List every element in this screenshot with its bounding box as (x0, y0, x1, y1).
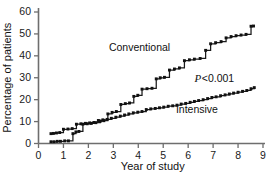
data-point-marker (204, 49, 207, 52)
data-point-marker (193, 58, 196, 61)
data-point-marker (149, 107, 152, 110)
data-point-marker (141, 88, 144, 91)
data-point-marker (214, 41, 217, 44)
data-point-marker (202, 98, 205, 101)
data-point-marker (168, 69, 171, 72)
data-point-marker (250, 25, 253, 28)
data-point-marker (250, 87, 253, 90)
data-point-marker (163, 76, 166, 79)
x-tick-label-2: 2 (85, 149, 91, 161)
data-point-marker (228, 93, 231, 96)
data-point-marker (136, 111, 139, 114)
x-tick-label-1: 1 (61, 149, 67, 161)
data-point-marker (235, 34, 238, 37)
data-point-marker (55, 132, 58, 135)
data-point-marker (158, 106, 161, 109)
data-point-marker (66, 128, 69, 131)
annotation-layer: ConventionalIntensiveP<0.001 (109, 41, 234, 115)
data-point-marker (119, 103, 122, 106)
data-point-marker (52, 132, 55, 135)
data-point-marker (173, 68, 176, 71)
data-point-marker (225, 36, 228, 39)
data-point-marker (210, 96, 213, 99)
x-axis-title: Year of study (121, 160, 185, 172)
data-point-marker (154, 107, 157, 110)
data-point-marker (209, 42, 212, 45)
data-point-marker (188, 58, 191, 61)
data-point-marker (79, 122, 82, 125)
x-tick-label-9: 9 (260, 149, 266, 161)
data-point-marker (237, 91, 240, 94)
data-point-marker (230, 35, 233, 38)
data-point-marker (128, 102, 131, 105)
data-point-marker (111, 111, 114, 114)
data-point-marker (241, 90, 244, 93)
y-tick-label-30: 30 (19, 71, 31, 83)
data-point-marker (114, 116, 117, 119)
data-point-marker (97, 119, 100, 122)
data-point-marker (50, 132, 53, 135)
data-point-marker (145, 108, 148, 111)
chart-figure: 01020304050600123456789 ConventionalInte… (0, 0, 268, 183)
x-tick-label-6: 6 (185, 149, 191, 161)
data-point-marker (92, 121, 95, 124)
y-tick-label-60: 60 (19, 5, 31, 17)
data-point-marker (232, 92, 235, 95)
data-point-marker (101, 118, 104, 121)
y-tick-label-10: 10 (19, 115, 31, 127)
data-point-marker (62, 128, 65, 131)
data-point-marker (159, 76, 162, 79)
data-point-marker (240, 34, 243, 37)
data-point-marker (71, 127, 74, 130)
data-point-marker (50, 140, 53, 143)
data-point-marker (245, 89, 248, 92)
data-point-marker (88, 121, 91, 124)
data-point-marker (183, 59, 186, 62)
data-point-marker (63, 139, 66, 142)
data-point-marker (215, 95, 218, 98)
data-point-marker (151, 87, 154, 90)
data-point-marker (84, 122, 87, 125)
y-tick-label-50: 50 (19, 27, 31, 39)
data-point-marker (171, 104, 174, 107)
intensive-label: Intensive (176, 103, 218, 115)
x-tick-label-0: 0 (36, 149, 42, 161)
y-axis-title: Percentage of patients (1, 22, 13, 133)
data-point-marker (146, 87, 149, 90)
data-point-marker (220, 40, 223, 43)
y-tick-label-20: 20 (19, 93, 31, 105)
data-point-marker (167, 105, 170, 108)
data-point-marker (155, 77, 158, 80)
y-tick-label-0: 0 (25, 137, 31, 149)
chart-plot-svg: 01020304050600123456789 ConventionalInte… (0, 0, 268, 183)
data-point-marker (106, 112, 109, 115)
x-tick-label-3: 3 (110, 149, 116, 161)
data-point-marker (71, 132, 74, 135)
pvalue-label: P<0.001 (194, 71, 235, 83)
conventional-label: Conventional (109, 41, 170, 53)
data-point-marker (106, 118, 109, 121)
data-point-marker (67, 139, 70, 142)
data-point-marker (127, 112, 130, 115)
data-point-marker (132, 95, 135, 98)
data-point-marker (124, 102, 127, 105)
data-point-marker (115, 110, 118, 113)
data-point-marker (206, 97, 209, 100)
data-point-marker (219, 94, 222, 97)
data-point-marker (75, 123, 78, 126)
data-point-marker (77, 130, 80, 133)
data-point-marker (74, 130, 77, 133)
x-tick-label-8: 8 (235, 149, 241, 161)
data-point-marker (224, 93, 227, 96)
data-point-marker (141, 110, 144, 113)
data-point-marker (252, 25, 255, 28)
data-point-marker (119, 115, 122, 118)
data-point-marker (253, 86, 256, 89)
data-point-marker (197, 99, 200, 102)
data-point-marker (136, 94, 139, 97)
y-tick-label-40: 40 (19, 49, 31, 61)
data-point-marker (59, 140, 62, 143)
data-point-marker (199, 57, 202, 60)
data-point-marker (162, 106, 165, 109)
data-point-marker (123, 114, 126, 117)
